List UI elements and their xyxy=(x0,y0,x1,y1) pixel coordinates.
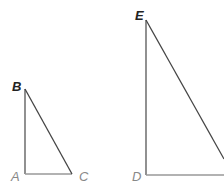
diagram-canvas xyxy=(0,0,224,196)
triangle-def xyxy=(146,20,224,175)
triangle-abc xyxy=(25,89,72,174)
label-a: A xyxy=(11,170,20,183)
side-bc xyxy=(25,89,72,174)
side-ef xyxy=(146,20,224,159)
label-c: C xyxy=(79,170,88,183)
label-b: B xyxy=(12,80,21,93)
label-e: E xyxy=(135,9,144,22)
label-d: D xyxy=(132,170,141,183)
